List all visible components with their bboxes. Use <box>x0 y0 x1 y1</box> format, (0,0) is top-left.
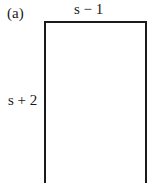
left-side-label: s + 2 <box>8 93 37 108</box>
part-label: (a) <box>7 6 24 21</box>
top-side-label: s − 1 <box>74 2 103 17</box>
rectangle-shape <box>44 21 147 183</box>
